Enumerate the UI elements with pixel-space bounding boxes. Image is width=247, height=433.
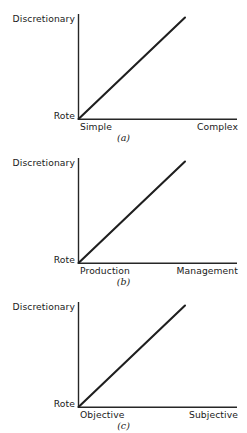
- chart-panel-a: Discretionary Rote Simple Complex (a): [0, 0, 247, 144]
- y-axis-bottom-label-b: Rote: [0, 254, 75, 265]
- y-axis-top-label-c: Discretionary: [0, 301, 75, 312]
- data-line-b: [79, 162, 186, 264]
- data-line-c: [79, 306, 186, 408]
- x-axis-right-label-b: Management: [0, 265, 238, 276]
- y-axis-bottom-label-a: Rote: [0, 110, 75, 121]
- figure-three-panel-line-charts: Discretionary Rote Simple Complex (a) Di…: [0, 0, 247, 433]
- chart-panel-c: Discretionary Rote Objective Subjective …: [0, 288, 247, 432]
- panel-caption-c: (c): [0, 420, 247, 431]
- x-axis-right-label-a: Complex: [0, 121, 238, 132]
- panel-caption-a: (a): [0, 132, 247, 143]
- panel-caption-b: (b): [0, 276, 247, 287]
- y-axis-bottom-label-c: Rote: [0, 398, 75, 409]
- y-axis-top-label-a: Discretionary: [0, 13, 75, 24]
- y-axis-top-label-b: Discretionary: [0, 157, 75, 168]
- chart-panel-b: Discretionary Rote Production Management…: [0, 144, 247, 288]
- x-axis-right-label-c: Subjective: [0, 409, 238, 420]
- data-line-a: [79, 18, 186, 120]
